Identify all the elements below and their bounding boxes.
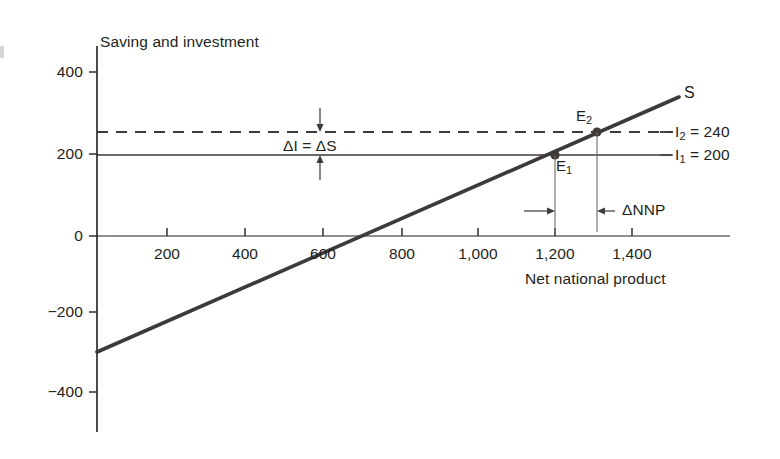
y-axis-title: Saving and investment xyxy=(100,33,259,51)
delta-nnp-arrow-left-head xyxy=(547,208,555,215)
delta-i-arrow-down-head xyxy=(317,124,324,132)
point-label-e1-text: E xyxy=(556,157,566,174)
saving-investment-chart-figure: Saving and investment Net national produ… xyxy=(0,0,780,459)
x-axis-title: Net national product xyxy=(525,270,666,288)
investment-line-label-i1-value: = 200 xyxy=(686,146,730,163)
series-label-s: S xyxy=(684,84,695,102)
x-tick-label-400: 400 xyxy=(211,245,279,263)
annotation-delta-i-equals-delta-s: ΔI = ΔS xyxy=(283,137,337,155)
y-tick-label-minus-400: −400 xyxy=(14,383,83,401)
saving-schedule-line xyxy=(97,97,679,352)
y-tick-label-400: 400 xyxy=(20,63,83,81)
x-tick-label-800: 800 xyxy=(368,245,436,263)
investment-line-label-i2-value: = 240 xyxy=(686,123,730,140)
investment-line-label-i1: I1 = 200 xyxy=(675,146,730,165)
y-tick-label-minus-200: −200 xyxy=(14,303,83,321)
x-tick-label-600: 600 xyxy=(289,245,357,263)
point-label-e2-subscript: 2 xyxy=(586,114,592,126)
point-label-e2-text: E xyxy=(576,107,586,124)
x-tick-label-1200: 1,200 xyxy=(519,245,591,263)
annotation-delta-nnp: ΔNNP xyxy=(622,201,665,219)
x-tick-label-1000: 1,000 xyxy=(442,245,514,263)
delta-nnp-arrow-right-head xyxy=(597,208,605,215)
x-tick-label-1400: 1,400 xyxy=(596,245,668,263)
point-label-e1: E1 xyxy=(556,157,572,176)
y-tick-label-200: 200 xyxy=(20,145,83,163)
delta-s-arrow-up-head xyxy=(317,155,324,163)
chart-canvas xyxy=(0,0,780,459)
investment-line-label-i2: I2 = 240 xyxy=(675,123,730,142)
point-label-e2: E2 xyxy=(576,107,592,126)
point-label-e1-subscript: 1 xyxy=(566,164,572,176)
y-tick-label-0: 0 xyxy=(20,227,83,245)
x-tick-label-200: 200 xyxy=(133,245,201,263)
